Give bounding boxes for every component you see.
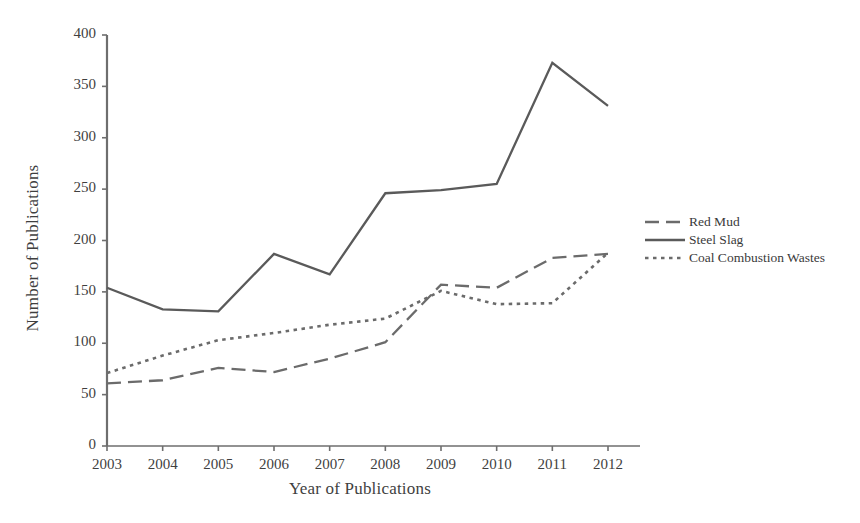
legend-label: Coal Combustion Wastes [689,251,825,265]
x-tick-label: 2005 [188,456,248,473]
y-tick-label: 350 [52,76,96,93]
legend-item[interactable]: Coal Combustion Wastes [645,249,825,267]
chart-legend: Red MudSteel SlagCoal Combustion Wastes [645,213,825,267]
dotted-line-icon [645,252,685,264]
solid-line-icon [645,234,685,246]
y-tick-label: 50 [52,385,96,402]
x-tick-label: 2010 [467,456,527,473]
y-tick-label: 150 [52,282,96,299]
x-tick-label: 2004 [133,456,193,473]
x-tick-label: 2003 [77,456,137,473]
y-tick-label: 300 [52,128,96,145]
x-tick-label: 2006 [244,456,304,473]
dashed-line-icon [645,216,685,228]
y-tick-label: 250 [52,179,96,196]
legend-label: Red Mud [689,215,740,229]
x-axis-title: Year of Publications [240,479,480,499]
series-line-steel-slag [107,63,608,312]
series-line-red-mud [107,254,608,383]
y-tick-label: 400 [52,25,96,42]
y-tick-label: 200 [52,231,96,248]
x-tick-label: 2007 [300,456,360,473]
legend-label: Steel Slag [689,233,743,247]
x-tick-label: 2011 [522,456,582,473]
x-tick-label: 2012 [578,456,638,473]
legend-item[interactable]: Steel Slag [645,231,825,249]
y-tick-label: 0 [52,436,96,453]
line-chart-figure: Number of Publications Year of Publicati… [0,0,860,523]
y-tick-label: 100 [52,333,96,350]
x-tick-label: 2008 [355,456,415,473]
x-tick-label: 2009 [411,456,471,473]
series-line-coal-combustion-wastes [107,253,608,373]
y-axis-title: Number of Publications [23,153,43,343]
legend-item[interactable]: Red Mud [645,213,825,231]
